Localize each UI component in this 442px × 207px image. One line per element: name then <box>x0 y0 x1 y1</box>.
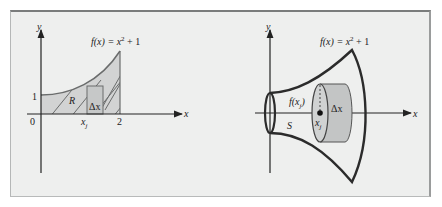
function-label-right: f(x) = x2 + 1 <box>320 35 369 48</box>
diagram-canvas: y x 0 1 2 R Δx xj f(x) = x2 + 1 y x S f(… <box>0 0 442 207</box>
y-axis-label: y <box>36 21 42 32</box>
y-tick-1: 1 <box>32 91 37 102</box>
sample-point-dot <box>317 110 323 116</box>
function-label: f(x) = x2 + 1 <box>91 35 140 48</box>
region-label: R <box>68 95 75 106</box>
left-panel-graph: y x 0 1 2 R Δx xj f(x) = x2 + 1 <box>27 21 189 173</box>
x-axis-label-right: x <box>412 108 418 119</box>
delta-x-label-right: Δx <box>331 103 342 114</box>
origin-label: 0 <box>30 116 35 127</box>
x-axis-label: x <box>183 108 189 119</box>
delta-x-label: Δx <box>89 101 100 112</box>
x-tick-2: 2 <box>117 116 122 127</box>
solid-label: S <box>287 120 292 131</box>
sample-point-label: xj <box>80 116 87 130</box>
y-axis-label-right: y <box>265 21 271 32</box>
radius-label: f(xj) <box>289 96 306 110</box>
right-panel-solid: y x S f(xj) Δx xj f(x) = x2 + 1 <box>255 21 418 182</box>
